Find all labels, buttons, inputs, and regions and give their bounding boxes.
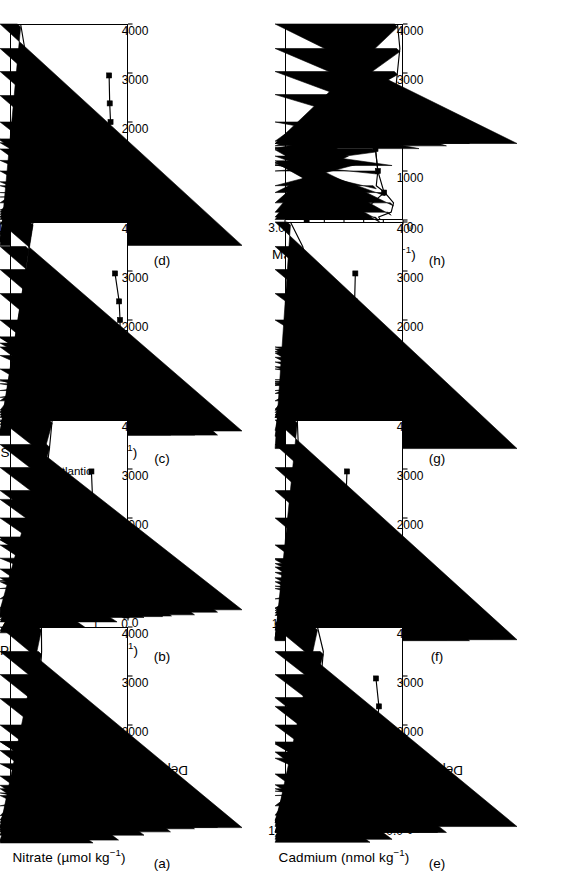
- x-tick-label: 4000: [397, 420, 424, 434]
- x-tick-label: 3000: [397, 676, 424, 690]
- x-tick-label: 1000: [397, 567, 424, 581]
- x-axis-label-depth-left: Depth (m): [128, 763, 188, 778]
- panel-label-e: (e): [429, 856, 446, 871]
- x-tick-label: 2000: [122, 725, 149, 739]
- panel-label-a: (a): [154, 856, 171, 871]
- y-tick-label: 10: [91, 824, 104, 838]
- x-tick-label: 2000: [122, 320, 149, 334]
- y-tick-label: 0.0: [386, 824, 403, 838]
- x-tick-label: 4000: [122, 24, 149, 38]
- x-tick-label: 1000: [122, 171, 149, 185]
- chart-panel-e: 0.00.20.40.60.81.01.201000200030004000Ca…: [275, 611, 471, 869]
- y-tick-label: 1.0: [288, 824, 305, 838]
- x-tick-label: 2000: [122, 122, 149, 136]
- x-tick-label: 2000: [122, 518, 149, 532]
- y-axis-label-e: Cadmium (nmol kg−1): [279, 847, 410, 865]
- y-tick-label: 30: [44, 824, 57, 838]
- x-tick-label: 4000: [397, 627, 424, 641]
- y-tick-label: 0: [121, 824, 128, 838]
- chart-panel-a: 0102030405001000200030004000Nitrate (µmo…: [0, 611, 196, 869]
- x-tick-label: 3000: [122, 676, 149, 690]
- x-tick-label: 2000: [397, 518, 424, 532]
- y-axis-label-a: Nitrate (µmol kg−1): [12, 847, 125, 865]
- y-tick-label: 0.4: [347, 824, 364, 838]
- x-tick-label: 1000: [122, 567, 149, 581]
- y-tick-label: 0.2: [367, 824, 384, 838]
- y-tick-label: 40: [20, 824, 33, 838]
- x-tick-label: 4000: [122, 222, 149, 236]
- x-tick-label: 3000: [122, 271, 149, 285]
- x-tick-label: 3000: [122, 469, 149, 483]
- x-tick-label: 0: [132, 823, 139, 837]
- x-tick-label: 2000: [397, 122, 424, 136]
- series-annotation-pacific: Pacific: [30, 589, 64, 601]
- x-tick-label: 2000: [397, 725, 424, 739]
- y-tick-label: 0.6: [327, 824, 344, 838]
- x-tick-label: 2000: [397, 320, 424, 334]
- x-tick-label: 0: [407, 823, 414, 837]
- x-tick-label: 1000: [397, 369, 424, 383]
- x-tick-label: 3000: [397, 73, 424, 87]
- y-tick-label: 50: [0, 824, 10, 838]
- y-tick-label: 20: [67, 824, 80, 838]
- y-tick-label: 1.2: [268, 824, 285, 838]
- x-tick-label: 3000: [397, 469, 424, 483]
- series-annotation-atlantic: Atlantic: [55, 465, 93, 477]
- x-tick-label: 4000: [397, 24, 424, 38]
- x-axis-label-depth-right: Depth (m): [403, 763, 463, 778]
- x-tick-label: 4000: [397, 222, 424, 236]
- y-tick-label: 0.8: [308, 824, 325, 838]
- x-tick-label: 4000: [122, 420, 149, 434]
- x-tick-label: 3000: [122, 73, 149, 87]
- x-tick-label: 1000: [397, 171, 424, 185]
- x-tick-label: 3000: [397, 271, 424, 285]
- x-tick-label: 1000: [122, 369, 149, 383]
- x-tick-label: 4000: [122, 627, 149, 641]
